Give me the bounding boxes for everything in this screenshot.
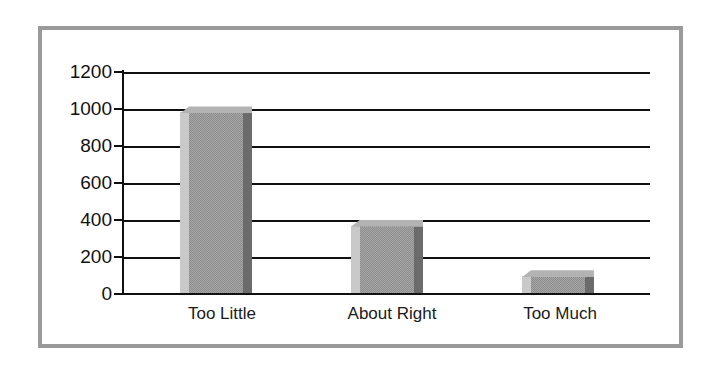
x-axis-baseline	[124, 293, 650, 295]
bar-right-face	[585, 276, 594, 293]
y-tick-mark-200	[114, 256, 123, 258]
plot-area	[124, 72, 650, 293]
bar-front-face	[189, 112, 243, 293]
bar-left-face	[180, 112, 189, 293]
y-tick-label: 800	[52, 136, 112, 155]
y-tick-label: 400	[52, 210, 112, 229]
y-axis-tick-labels: 1200 1000 800 600 400 200 0	[48, 0, 112, 322]
y-tick-label: 200	[52, 247, 112, 266]
gridline-1200	[124, 72, 650, 74]
y-tick-mark-1200	[114, 71, 123, 73]
bar-left-face	[522, 276, 531, 293]
y-tick-mark-400	[114, 219, 123, 221]
bar-left-face	[351, 226, 360, 293]
x-tick-label-too-much: Too Much	[470, 304, 650, 324]
y-tick-mark-0	[114, 293, 123, 295]
y-tick-mark-800	[114, 145, 123, 147]
bar-too-much	[522, 270, 594, 293]
y-tick-label: 1200	[52, 62, 112, 81]
bar-top-face	[180, 106, 252, 113]
bar-too-little	[180, 106, 252, 293]
bar-chart-figure: 1200 1000 800 600 400 200 0 Too Little A…	[0, 0, 716, 372]
bar-about-right	[351, 220, 423, 293]
y-tick-label: 600	[52, 173, 112, 192]
bar-top-face	[351, 220, 423, 227]
bar-right-face	[243, 112, 252, 293]
bar-front-face	[360, 226, 414, 293]
x-tick-label-too-little: Too Little	[132, 304, 312, 324]
bar-top-face	[522, 270, 594, 277]
bar-right-face	[414, 226, 423, 293]
y-tick-label: 1000	[52, 99, 112, 118]
bar-front-face	[531, 276, 585, 293]
y-tick-mark-600	[114, 182, 123, 184]
y-tick-label: 0	[52, 284, 112, 303]
x-tick-label-about-right: About Right	[302, 304, 482, 324]
y-tick-mark-1000	[114, 108, 123, 110]
